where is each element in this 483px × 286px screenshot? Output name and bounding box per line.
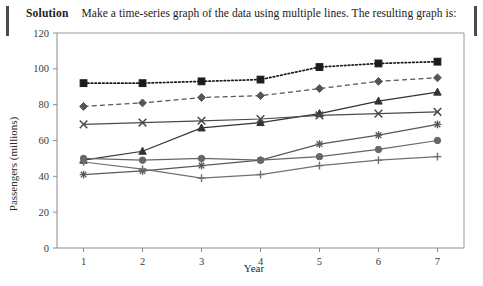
time-series-chart: 020406080100120 1234567 Passengers (mill… — [0, 24, 483, 286]
y-axis-ticks: 020406080100120 — [33, 28, 57, 254]
x-tick-label: 5 — [317, 256, 322, 267]
y-tick-label: 0 — [44, 243, 49, 254]
x-tick-label: 2 — [140, 256, 145, 267]
series-asterisk-solid — [80, 120, 442, 178]
data-point-marker — [434, 58, 441, 65]
data-point-marker — [80, 171, 88, 179]
chart-frame — [57, 33, 464, 248]
data-point-marker — [316, 162, 324, 170]
data-point-marker — [316, 140, 324, 148]
chart-canvas: 020406080100120 1234567 Passengers (mill… — [0, 24, 483, 286]
data-point-marker — [198, 78, 205, 85]
x-tick-label: 1 — [81, 256, 86, 267]
y-tick-label: 20 — [39, 207, 50, 218]
y-tick-label: 40 — [39, 171, 50, 182]
data-point-marker — [375, 60, 382, 67]
x-axis-title: Year — [244, 262, 265, 274]
data-point-marker — [316, 85, 324, 93]
data-point-marker — [257, 92, 265, 100]
data-point-marker — [80, 80, 87, 87]
data-point-marker — [434, 153, 442, 161]
textbook-solution-page: Solution Make a time-series graph of the… — [0, 0, 483, 286]
solution-label: Solution — [26, 7, 69, 19]
y-tick-label: 60 — [39, 135, 50, 146]
data-point-marker — [375, 146, 381, 152]
y-tick-label: 120 — [33, 28, 49, 39]
series-line — [84, 124, 438, 174]
data-point-marker — [434, 137, 440, 143]
data-point-marker — [198, 155, 204, 161]
data-point-marker — [375, 77, 383, 85]
data-point-marker — [375, 131, 383, 139]
data-point-marker — [257, 171, 265, 179]
data-point-marker — [434, 88, 441, 95]
y-axis-title: Passengers (millions) — [7, 116, 20, 211]
y-tick-label: 80 — [39, 99, 50, 110]
data-point-marker — [198, 94, 206, 102]
series-line — [84, 92, 438, 160]
data-point-marker — [198, 162, 206, 170]
data-point-marker — [316, 153, 322, 159]
data-point-marker — [375, 156, 383, 164]
x-tick-label: 3 — [199, 256, 204, 267]
data-point-marker — [257, 76, 264, 83]
x-tick-label: 6 — [376, 256, 381, 267]
data-point-marker — [434, 120, 442, 128]
solution-text: Make a time-series graph of the data usi… — [82, 7, 457, 19]
data-point-marker — [139, 165, 147, 173]
data-point-marker — [80, 103, 88, 111]
data-point-marker — [316, 64, 323, 71]
data-point-marker — [139, 157, 145, 163]
x-tick-label: 7 — [435, 256, 440, 267]
data-point-marker — [257, 157, 263, 163]
data-point-marker — [434, 74, 442, 82]
series-square-dotted — [80, 58, 441, 86]
y-tick-label: 100 — [33, 63, 49, 74]
chart-series-group — [80, 58, 442, 182]
solution-header: Solution Make a time-series graph of the… — [26, 7, 457, 19]
data-point-marker — [198, 174, 206, 182]
data-point-marker — [139, 80, 146, 87]
data-point-marker — [139, 99, 147, 107]
